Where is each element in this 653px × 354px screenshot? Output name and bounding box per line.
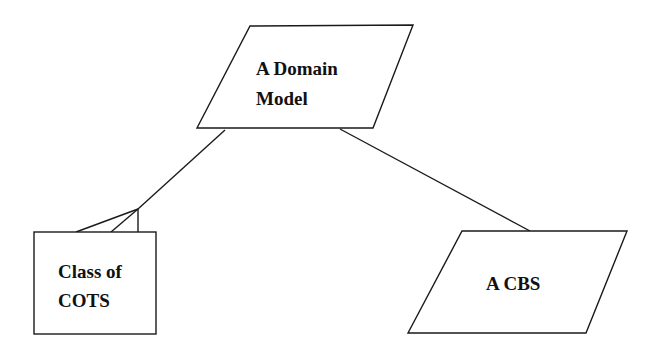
node-domain-model[interactable]: A Domain Model	[197, 25, 413, 128]
node-label-line-1: A CBS	[486, 273, 540, 294]
rectangle-shape	[34, 232, 156, 334]
connector-line	[138, 130, 225, 209]
edge-domain-to-cots	[76, 130, 225, 232]
node-label-line-1: Class of	[58, 261, 123, 282]
crows-foot-prong-left	[76, 209, 138, 232]
node-class-of-cots[interactable]: Class of COTS	[34, 232, 156, 334]
connector-line	[340, 129, 530, 231]
edge-domain-to-cbs	[340, 129, 530, 231]
node-label-line-2: Model	[256, 88, 308, 109]
node-label-line-2: COTS	[58, 290, 110, 311]
node-cbs[interactable]: A CBS	[408, 231, 627, 333]
diagram-canvas: A Domain Model Class of COTS A CBS	[0, 0, 653, 354]
node-label-line-1: A Domain	[256, 58, 338, 79]
crows-foot-prong-middle	[111, 209, 138, 232]
